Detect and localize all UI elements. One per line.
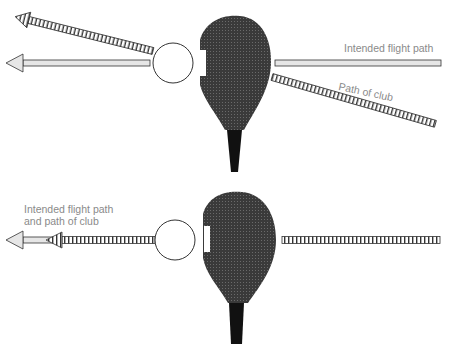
golf-ball (155, 220, 195, 260)
clubhead (200, 16, 271, 130)
club-path-arrow-left (13, 9, 155, 59)
club-shaft (229, 303, 244, 344)
combined-path-line-right (282, 237, 440, 244)
clubhead (203, 192, 276, 303)
club-shaft (227, 130, 242, 172)
club-face (204, 226, 210, 252)
club-path-line-right (271, 74, 436, 128)
combined-label-line1: Intended flight path (24, 203, 113, 215)
golf-ball (153, 43, 193, 83)
flight-path-arrow-left (6, 54, 150, 72)
flight-path-line-right (275, 60, 441, 66)
club-face (200, 50, 206, 76)
combined-label-line2: and path of club (24, 215, 99, 227)
combined-path-arrow-left (6, 231, 155, 249)
intended-flight-path-label: Intended flight path (344, 42, 433, 54)
